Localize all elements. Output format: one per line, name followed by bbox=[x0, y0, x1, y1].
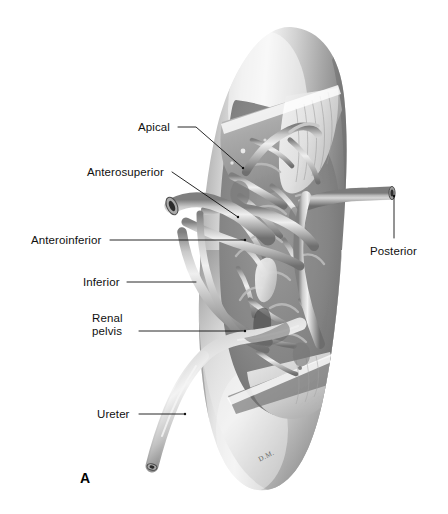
leader-dot-anterosuperior bbox=[237, 216, 239, 218]
leader-dot-ureter bbox=[184, 413, 186, 415]
label-apical: Apical bbox=[138, 121, 170, 134]
label-inferior: Inferior bbox=[83, 276, 120, 289]
leader-dot-apical bbox=[242, 167, 244, 169]
leader-dot-posterior bbox=[393, 195, 395, 197]
renal-calyx-lower bbox=[293, 342, 310, 366]
label-renal-pelvis: Renal pelvis bbox=[92, 312, 123, 338]
label-anterosuperior: Anterosuperior bbox=[87, 166, 164, 179]
label-ureter: Ureter bbox=[97, 408, 130, 421]
vessel-cross-section bbox=[241, 149, 246, 154]
vessel-cross-section bbox=[230, 161, 233, 164]
label-posterior: Posterior bbox=[370, 245, 417, 258]
leader-dot-anteroinferior bbox=[244, 239, 246, 241]
label-renal-pelvis-line2: pelvis bbox=[92, 325, 123, 338]
leader-dot-renal-pelvis bbox=[244, 330, 246, 332]
label-renal-pelvis-line1: Renal bbox=[92, 312, 123, 325]
label-anteroinferior: Anteroinferior bbox=[31, 234, 101, 247]
vessel-cross-section bbox=[298, 366, 302, 370]
panel-letter-a: A bbox=[80, 470, 90, 486]
